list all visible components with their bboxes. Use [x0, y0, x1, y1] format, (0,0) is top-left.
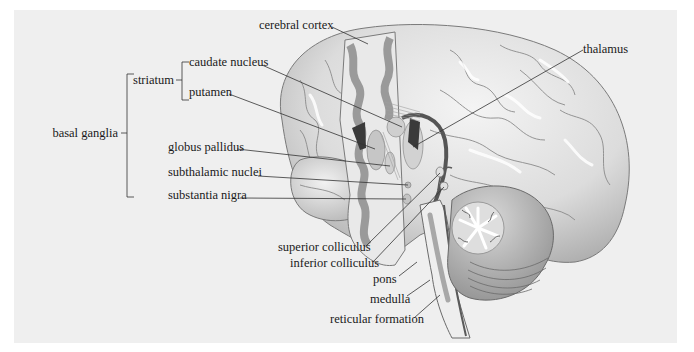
label-reticular-formation: reticular formation	[330, 312, 424, 326]
label-putamen: putamen	[189, 85, 232, 99]
label-superior-colliculus: superior colliculus	[278, 240, 371, 254]
label-globus-pallidus: globus pallidus	[168, 140, 244, 154]
label-pons: pons	[373, 272, 397, 286]
label-caudate-nucleus: caudate nucleus	[189, 55, 268, 69]
label-basal-ganglia: basal ganglia	[40, 126, 118, 140]
cerebellum	[448, 186, 554, 300]
label-inferior-colliculus: inferior colliculus	[290, 256, 379, 270]
label-thalamus: thalamus	[583, 42, 628, 56]
label-medulla: medulla	[370, 292, 410, 306]
label-substantia-nigra: substantia nigra	[168, 188, 247, 202]
label-subthalamic-nuclei: subthalamic nuclei	[168, 165, 262, 179]
label-striatum: striatum	[128, 73, 174, 87]
label-cerebral-cortex: cerebral cortex	[259, 18, 334, 32]
